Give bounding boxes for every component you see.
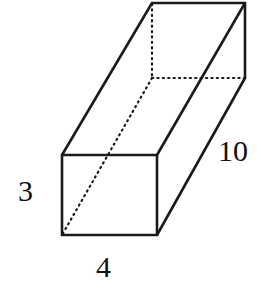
dimension-label-height: 3	[18, 176, 33, 206]
edge-top-right-connector	[157, 3, 245, 155]
dimension-label-length: 10	[218, 136, 248, 166]
visible-edges-group	[61, 2, 246, 236]
hidden-edges-group	[62, 4, 245, 235]
dimension-label-width: 4	[96, 252, 111, 282]
edge-top-left-connector	[62, 3, 152, 155]
hidden-edge-bottom-left-connector	[62, 78, 152, 235]
rectangular-prism-figure: 3 4 10	[0, 0, 261, 297]
